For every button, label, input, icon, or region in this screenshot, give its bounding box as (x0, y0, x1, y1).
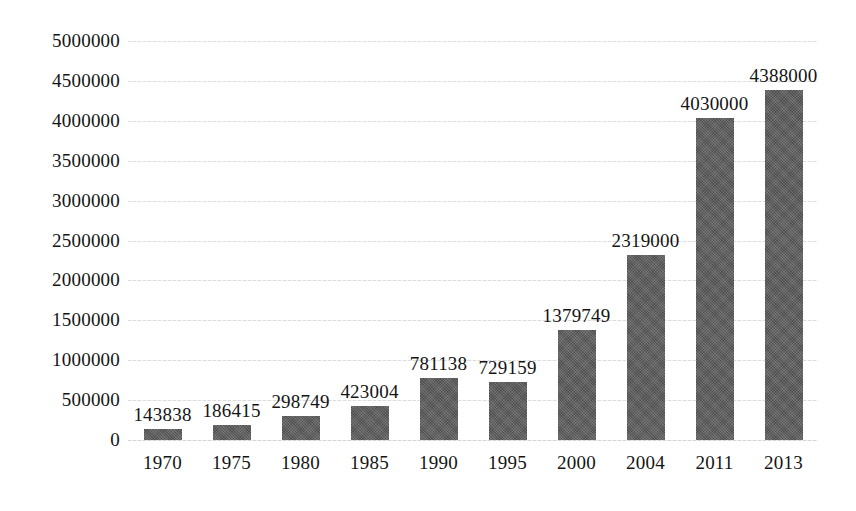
bar-slot: 186415 (197, 41, 266, 440)
x-tick-label: 2013 (749, 452, 818, 474)
bar-value-label: 423004 (340, 382, 398, 402)
bar-value-label: 781138 (410, 354, 468, 374)
y-tick-label: 3000000 (0, 191, 120, 210)
y-axis: 0500000100000015000002000000250000030000… (0, 0, 120, 511)
bar-value-label: 4030000 (681, 94, 749, 114)
bar-value-label: 729159 (478, 358, 536, 378)
bar-value-label: 4388000 (750, 66, 818, 86)
bar-chart: 0500000100000015000002000000250000030000… (0, 0, 856, 511)
bar-value-label: 1379749 (543, 306, 611, 326)
bar[interactable] (765, 90, 803, 440)
x-tick-label: 1975 (197, 452, 266, 474)
y-tick-label: 500000 (0, 390, 120, 409)
gridline (128, 440, 818, 441)
bar[interactable] (213, 425, 251, 440)
bar[interactable] (420, 378, 458, 440)
y-tick-label: 2000000 (0, 270, 120, 289)
bar-slot: 1379749 (542, 41, 611, 440)
x-tick-label: 1995 (473, 452, 542, 474)
y-tick-label: 1500000 (0, 310, 120, 329)
bar-value-label: 143838 (133, 405, 191, 425)
bar-slot: 143838 (128, 41, 197, 440)
bar[interactable] (627, 255, 665, 440)
bar[interactable] (489, 382, 527, 440)
bar[interactable] (144, 429, 182, 440)
x-tick-label: 1985 (335, 452, 404, 474)
bar-slot: 4030000 (680, 41, 749, 440)
bar-slot: 4388000 (749, 41, 818, 440)
y-tick-label: 5000000 (0, 31, 120, 50)
x-tick-label: 1980 (266, 452, 335, 474)
bar-slot: 781138 (404, 41, 473, 440)
bar-slot: 423004 (335, 41, 404, 440)
x-tick-label: 1990 (404, 452, 473, 474)
bar-value-label: 2319000 (612, 231, 680, 251)
bar-slot: 729159 (473, 41, 542, 440)
x-tick-label: 2000 (542, 452, 611, 474)
bar[interactable] (696, 118, 734, 440)
y-tick-label: 0 (0, 430, 120, 449)
x-axis: 1970197519801985199019952000200420112013 (128, 452, 818, 482)
plot-area: 1438381864152987494230047811387291591379… (128, 41, 818, 440)
y-tick-label: 4000000 (0, 111, 120, 130)
x-tick-label: 2011 (680, 452, 749, 474)
bar[interactable] (558, 330, 596, 440)
bar-value-label: 186415 (202, 401, 260, 421)
y-tick-label: 2500000 (0, 231, 120, 250)
y-tick-label: 3500000 (0, 151, 120, 170)
bar[interactable] (282, 416, 320, 440)
bar-slot: 2319000 (611, 41, 680, 440)
x-tick-label: 1970 (128, 452, 197, 474)
bar-slot: 298749 (266, 41, 335, 440)
y-tick-label: 1000000 (0, 350, 120, 369)
x-tick-label: 2004 (611, 452, 680, 474)
bar-value-label: 298749 (271, 392, 329, 412)
y-tick-label: 4500000 (0, 71, 120, 90)
bar[interactable] (351, 406, 389, 440)
